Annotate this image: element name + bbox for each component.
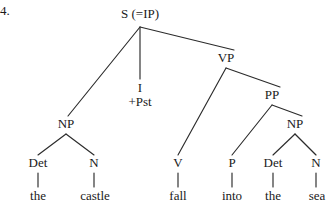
node-pp: PP — [265, 88, 279, 101]
node-v: V — [173, 156, 182, 169]
terminal-fall: fall — [169, 189, 186, 202]
syntax-tree-figure: 4. — [0, 0, 334, 216]
branch-np-to-n1 — [66, 134, 94, 155]
node-np-subject: NP — [58, 117, 75, 130]
node-det-object: Det — [264, 156, 283, 169]
node-s: S (=IP) — [121, 7, 159, 20]
branch-vp-to-pp — [226, 68, 280, 87]
node-i-features: +Pst — [128, 95, 151, 109]
branch-np-to-n2 — [295, 134, 316, 155]
node-i-head: I — [128, 81, 151, 95]
branch-np-to-det1 — [38, 134, 66, 155]
branch-np-to-det2 — [273, 134, 295, 155]
terminal-the-1: the — [30, 189, 46, 202]
node-det-subject: Det — [29, 156, 48, 169]
node-n-subject: N — [89, 156, 98, 169]
node-vp: VP — [218, 51, 235, 64]
terminal-castle: castle — [80, 189, 110, 202]
terminal-sea: sea — [309, 189, 326, 202]
node-n-object: N — [311, 156, 320, 169]
terminal-into: into — [222, 189, 242, 202]
node-np-object: NP — [287, 117, 304, 130]
item-number-label: 4. — [0, 3, 10, 19]
branch-pp-to-np — [272, 105, 302, 116]
branch-pp-to-p — [232, 105, 272, 155]
branch-vp-to-v — [178, 68, 226, 155]
node-p: P — [228, 156, 235, 169]
branch-s-to-vp — [140, 27, 234, 50]
node-inflection: I +Pst — [128, 81, 151, 108]
tree-branch-lines — [0, 0, 334, 216]
terminal-the-2: the — [265, 189, 281, 202]
